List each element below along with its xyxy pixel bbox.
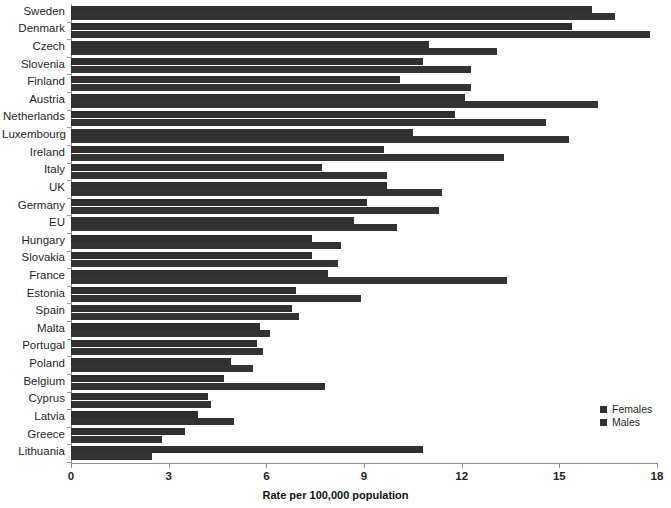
chart-legend: Females Males — [600, 403, 652, 429]
bar-group: Lithuania — [71, 444, 657, 462]
bar-males-belgium — [71, 383, 325, 390]
category-label-hungary: Hungary — [2, 234, 65, 246]
bar-males-eu — [71, 224, 397, 231]
category-label-sweden: Sweden — [2, 5, 65, 17]
x-axis-tick-label: 0 — [68, 470, 74, 482]
category-label-lithuania: Lithuania — [2, 445, 65, 457]
bar-males-latvia — [71, 418, 234, 425]
x-axis-tick — [266, 463, 267, 468]
category-label-eu: EU — [2, 216, 65, 228]
x-axis-tick-label: 3 — [165, 470, 171, 482]
category-label-estonia: Estonia — [2, 287, 65, 299]
bar-females-austria — [71, 94, 465, 101]
bar-females-czech — [71, 41, 429, 48]
category-label-germany: Germany — [2, 199, 65, 211]
x-axis-tick — [462, 463, 463, 468]
bar-females-ireland — [71, 146, 384, 153]
bar-group: Hungary — [71, 233, 657, 251]
bar-females-hungary — [71, 235, 312, 242]
bar-group: Netherlands — [71, 110, 657, 128]
bar-group: Greece — [71, 427, 657, 445]
bar-males-ireland — [71, 154, 504, 161]
bar-group: Spain — [71, 303, 657, 321]
bar-females-portugal — [71, 340, 257, 347]
category-label-austria: Austria — [2, 93, 65, 105]
bar-females-italy — [71, 164, 322, 171]
bar-group: Belgium — [71, 374, 657, 392]
bar-females-estonia — [71, 287, 296, 294]
bar-females-germany — [71, 199, 367, 206]
legend-item-males: Males — [600, 416, 652, 429]
legend-swatch-females — [600, 406, 607, 413]
bar-group: Austria — [71, 92, 657, 110]
bar-females-cyprus — [71, 393, 208, 400]
x-axis-tick-label: 6 — [263, 470, 269, 482]
category-label-czech: Czech — [2, 40, 65, 52]
category-label-slovenia: Slovenia — [2, 58, 65, 70]
bar-males-germany — [71, 207, 439, 214]
category-label-greece: Greece — [2, 428, 65, 440]
bar-group: Malta — [71, 321, 657, 339]
bar-females-denmark — [71, 23, 572, 30]
x-axis-tick-label: 18 — [651, 470, 664, 482]
bar-females-eu — [71, 217, 354, 224]
bar-females-finland — [71, 76, 400, 83]
bar-males-slovakia — [71, 260, 338, 267]
category-label-belgium: Belgium — [2, 375, 65, 387]
bar-females-slovakia — [71, 252, 312, 259]
x-axis-tick — [364, 463, 365, 468]
category-label-denmark: Denmark — [2, 22, 65, 34]
bar-group: EU — [71, 215, 657, 233]
bar-group: Italy — [71, 163, 657, 181]
category-label-italy: Italy — [2, 163, 65, 175]
category-label-cyprus: Cyprus — [2, 392, 65, 404]
category-label-ireland: Ireland — [2, 146, 65, 158]
bar-group: Portugal — [71, 339, 657, 357]
bar-males-spain — [71, 313, 299, 320]
bar-males-cyprus — [71, 401, 211, 408]
bar-males-denmark — [71, 31, 650, 38]
bar-females-sweden — [71, 6, 592, 13]
category-label-latvia: Latvia — [2, 410, 65, 422]
category-label-poland: Poland — [2, 357, 65, 369]
bar-group: Sweden — [71, 4, 657, 22]
bar-males-sweden — [71, 13, 615, 20]
category-label-slovakia: Slovakia — [2, 251, 65, 263]
bar-females-slovenia — [71, 58, 423, 65]
legend-label-females: Females — [612, 403, 652, 416]
bar-group: Estonia — [71, 286, 657, 304]
bar-group: Ireland — [71, 145, 657, 163]
bar-females-lithuania — [71, 446, 423, 453]
bar-males-austria — [71, 101, 598, 108]
bar-males-finland — [71, 84, 471, 91]
bar-males-uk — [71, 189, 442, 196]
category-label-finland: Finland — [2, 75, 65, 87]
bar-group: Slovenia — [71, 57, 657, 75]
plot-area: SwedenDenmarkCzechSloveniaFinlandAustria… — [71, 4, 657, 462]
bar-males-luxembourg — [71, 136, 569, 143]
bar-group: Czech — [71, 39, 657, 57]
bar-males-netherlands — [71, 119, 546, 126]
x-axis-tick — [169, 463, 170, 468]
bar-group: Poland — [71, 356, 657, 374]
bar-males-poland — [71, 365, 253, 372]
bar-males-italy — [71, 172, 387, 179]
bar-chart: SwedenDenmarkCzechSloveniaFinlandAustria… — [0, 0, 671, 508]
bar-males-malta — [71, 330, 270, 337]
legend-swatch-males — [600, 419, 607, 426]
bar-males-slovenia — [71, 66, 471, 73]
bar-group: Luxembourg — [71, 127, 657, 145]
category-label-uk: UK — [2, 181, 65, 193]
x-axis-title: Rate per 100,000 population — [0, 489, 671, 501]
bar-group: Germany — [71, 198, 657, 216]
bar-group: Finland — [71, 74, 657, 92]
category-label-malta: Malta — [2, 322, 65, 334]
x-axis-tick — [657, 463, 658, 468]
bar-females-spain — [71, 305, 292, 312]
category-label-netherlands: Netherlands — [2, 110, 65, 122]
x-axis-tick-label: 12 — [455, 470, 468, 482]
category-label-spain: Spain — [2, 304, 65, 316]
bar-females-france — [71, 270, 328, 277]
bar-females-belgium — [71, 375, 224, 382]
bar-females-latvia — [71, 411, 198, 418]
